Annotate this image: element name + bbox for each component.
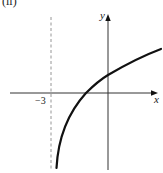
y-axis-arrow-icon bbox=[105, 14, 110, 21]
asymptote-tick-label: −3 bbox=[35, 95, 46, 106]
y-axis-label: y bbox=[99, 9, 105, 21]
graph: y x −3 bbox=[0, 0, 163, 173]
x-axis-label: x bbox=[153, 93, 159, 105]
log-curve bbox=[57, 49, 162, 168]
